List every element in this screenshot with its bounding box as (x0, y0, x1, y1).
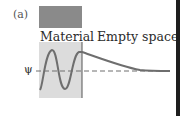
psi-axis-label: ψ (24, 63, 33, 76)
empty-space-label: Empty space (97, 29, 178, 44)
page-border (176, 0, 180, 116)
material-region (39, 42, 82, 98)
wave-diagram (0, 0, 180, 116)
material-label: Material (40, 29, 94, 44)
material-bar (39, 6, 82, 28)
